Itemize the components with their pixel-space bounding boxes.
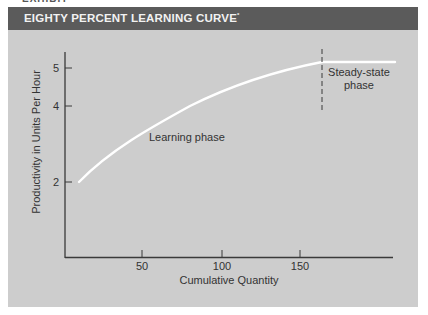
steady-state-label-line2: phase xyxy=(344,79,374,91)
x-tick-label-150: 150 xyxy=(291,260,309,272)
learning-phase-label: Learning phase xyxy=(149,131,225,143)
x-tick-label-50: 50 xyxy=(136,260,148,272)
chart-plot: 5 4 2 50 100 150 Cumulative Quantity Pro… xyxy=(0,0,428,315)
y-tick-label-2: 2 xyxy=(53,176,59,188)
x-tick-label-100: 100 xyxy=(213,260,231,272)
y-tick-label-4: 4 xyxy=(53,100,59,112)
steady-state-label-line1: Steady-state xyxy=(328,66,390,78)
x-axis-title: Cumulative Quantity xyxy=(179,274,279,286)
y-tick-label-5: 5 xyxy=(53,62,59,74)
y-axis-title: Productivity in Units Per Hour xyxy=(30,70,42,214)
